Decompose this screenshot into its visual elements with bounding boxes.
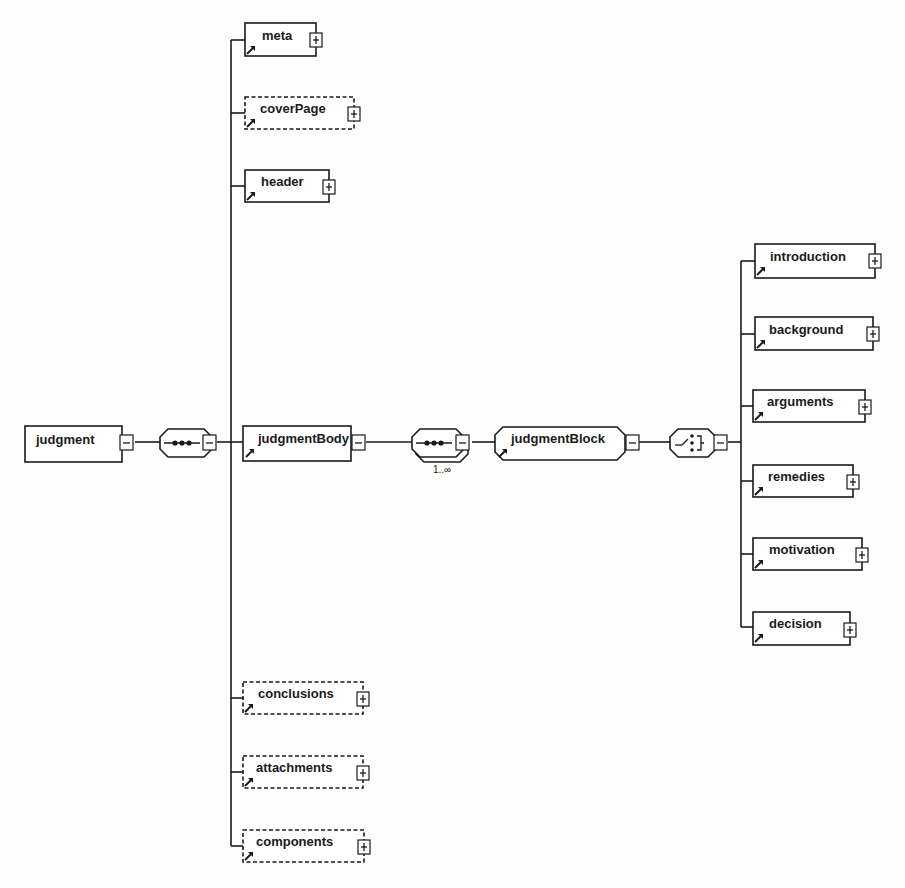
element-label: decision xyxy=(769,616,822,631)
element-header[interactable]: header xyxy=(245,170,335,202)
element-label: conclusions xyxy=(258,686,334,701)
expand-toggle-plus-icon[interactable] xyxy=(357,766,369,780)
schema-diagram: judgment meta coverPage xyxy=(0,0,905,888)
expand-toggle-plus-icon[interactable] xyxy=(323,180,335,194)
element-label: background xyxy=(769,322,843,337)
group-judgmentBlock[interactable]: judgmentBlock xyxy=(495,427,639,460)
element-attachments[interactable]: attachments xyxy=(243,756,369,788)
element-judgment[interactable]: judgment xyxy=(25,426,133,462)
element-introduction[interactable]: introduction xyxy=(755,244,881,278)
expand-toggle-plus-icon[interactable] xyxy=(844,623,856,637)
sequence-dot-icon xyxy=(438,440,443,445)
sequence-dot-icon xyxy=(424,440,429,445)
element-label: remedies xyxy=(768,469,825,484)
element-components[interactable]: components xyxy=(243,830,370,862)
element-background[interactable]: background xyxy=(755,317,879,350)
element-coverPage[interactable]: coverPage xyxy=(245,97,360,129)
sequence-compositor[interactable] xyxy=(160,429,216,457)
expand-toggle-plus-icon[interactable] xyxy=(357,692,369,706)
element-label: judgmentBody xyxy=(257,431,350,446)
element-label: introduction xyxy=(770,249,846,264)
element-label: components xyxy=(256,834,333,849)
collapse-toggle-minus-icon[interactable] xyxy=(352,435,365,450)
expand-toggle-plus-icon[interactable] xyxy=(859,400,871,414)
element-label: attachments xyxy=(256,760,333,775)
element-label: motivation xyxy=(769,542,835,557)
element-meta[interactable]: meta xyxy=(245,23,322,56)
expand-toggle-plus-icon[interactable] xyxy=(856,548,868,562)
element-label: meta xyxy=(262,28,293,43)
sequence-dot-icon xyxy=(186,440,191,445)
element-arguments[interactable]: arguments xyxy=(753,390,871,422)
expand-toggle-plus-icon[interactable] xyxy=(358,840,370,854)
repeating-sequence-compositor[interactable]: 1..∞ xyxy=(412,429,469,475)
expand-toggle-plus-icon[interactable] xyxy=(867,327,879,341)
expand-toggle-plus-icon[interactable] xyxy=(310,33,322,47)
expand-toggle-plus-icon[interactable] xyxy=(348,107,360,121)
choice-compositor[interactable] xyxy=(670,429,727,457)
element-remedies[interactable]: remedies xyxy=(753,465,859,497)
element-label: arguments xyxy=(767,394,833,409)
element-label: coverPage xyxy=(260,101,326,116)
element-label: header xyxy=(261,174,304,189)
sequence-dot-icon xyxy=(431,440,436,445)
collapse-toggle-minus-icon[interactable] xyxy=(120,435,133,450)
sequence-dot-icon xyxy=(179,440,184,445)
expand-toggle-plus-icon[interactable] xyxy=(847,475,859,489)
element-judgmentBody[interactable]: judgmentBody xyxy=(243,426,365,461)
element-motivation[interactable]: motivation xyxy=(753,538,868,570)
expand-toggle-plus-icon[interactable] xyxy=(869,254,881,268)
element-label: judgmentBlock xyxy=(510,431,606,446)
element-decision[interactable]: decision xyxy=(753,612,856,645)
collapse-toggle-minus-icon[interactable] xyxy=(714,435,727,450)
collapse-toggle-minus-icon[interactable] xyxy=(626,435,639,450)
multiplicity-label: 1..∞ xyxy=(433,464,451,475)
collapse-toggle-minus-icon[interactable] xyxy=(203,435,216,450)
element-conclusions[interactable]: conclusions xyxy=(243,682,369,714)
collapse-toggle-minus-icon[interactable] xyxy=(456,435,469,450)
element-label: judgment xyxy=(35,432,95,447)
sequence-dot-icon xyxy=(172,440,177,445)
